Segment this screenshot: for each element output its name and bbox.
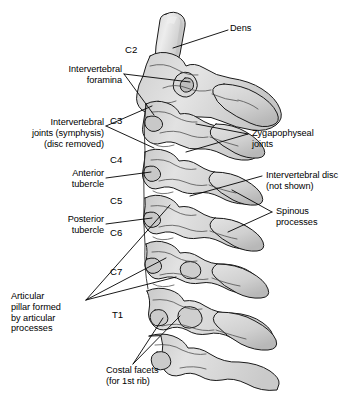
level-label-c4: C4	[110, 155, 122, 166]
label-intervertebral-joints: Intervertebral joints (symphysis) (disc …	[6, 117, 104, 149]
label-dens: Dens	[230, 23, 251, 34]
anatomy-figure: Dens Intervertebral foramina Interverteb…	[0, 0, 353, 401]
level-label-t1: T1	[112, 310, 123, 321]
cervical-spine-illustration	[0, 0, 353, 401]
label-posterior-tubercle: Posterior tubercle	[36, 214, 104, 236]
c4-anterior-tubercle	[144, 166, 161, 181]
c3-anterior-tubercle	[145, 116, 163, 131]
label-intervertebral-disc: Intervertebral disc (not shown)	[266, 170, 353, 192]
bone-mass	[137, 12, 282, 390]
label-articular-pillar: Articular pillar formed by articular pro…	[11, 291, 103, 334]
label-costal-facets: Costal facets (for 1st rib)	[106, 365, 206, 387]
label-zygapophyseal-joints: Zygapophyseal joints	[252, 128, 352, 150]
level-label-c5: C5	[110, 196, 122, 207]
level-label-c3: C3	[110, 116, 122, 127]
level-label-c7: C7	[110, 267, 122, 278]
c6-posterior-tubercle	[145, 258, 162, 273]
level-label-c2: C2	[125, 45, 137, 56]
label-spinous-processes: Spinous processes	[276, 206, 352, 228]
label-intervertebral-foramina: Intervertebral foramina	[46, 64, 122, 86]
level-label-c6: C6	[110, 228, 122, 239]
c6-articular-facet	[180, 262, 201, 279]
c5-spinous-process	[210, 218, 264, 251]
label-anterior-tubercle: Anterior tubercle	[40, 168, 104, 190]
c7-spinous-process	[213, 312, 276, 350]
